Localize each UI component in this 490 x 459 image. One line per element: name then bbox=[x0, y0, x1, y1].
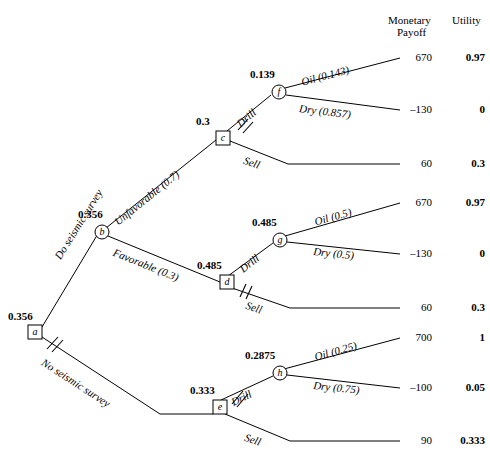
node-c-letter: c bbox=[216, 131, 230, 145]
payoff-column-header-line2: Payoff bbox=[397, 26, 426, 38]
prune-mark-a-e bbox=[47, 337, 63, 352]
outcome-payoff: –130 bbox=[382, 103, 432, 115]
outcome-payoff: 60 bbox=[382, 157, 432, 169]
node-a-value: 0.356 bbox=[8, 310, 33, 322]
node-f-letter: f bbox=[272, 85, 286, 99]
outcome-utility: 0.333 bbox=[440, 434, 485, 446]
node-e-value: 0.333 bbox=[190, 384, 215, 396]
node-h-value: 0.2875 bbox=[245, 349, 275, 361]
outcome-payoff: –130 bbox=[382, 247, 432, 259]
outcome-utility: 0.97 bbox=[440, 51, 485, 63]
outcome-utility: 0.97 bbox=[440, 196, 485, 208]
outcome-payoff: –100 bbox=[382, 381, 432, 393]
outcome-payoff: 90 bbox=[382, 434, 432, 446]
outcome-utility: 0.05 bbox=[440, 381, 485, 393]
outcome-payoff: 670 bbox=[382, 196, 432, 208]
node-d-letter: d bbox=[220, 275, 234, 289]
node-a-letter: a bbox=[28, 325, 42, 339]
outcome-payoff: 60 bbox=[382, 301, 432, 313]
node-d-value: 0.485 bbox=[197, 259, 222, 271]
node-g-value: 0.485 bbox=[252, 216, 277, 228]
outcome-utility: 0.3 bbox=[440, 157, 485, 169]
outcome-payoff: 700 bbox=[382, 331, 432, 343]
node-c-value: 0.3 bbox=[196, 115, 210, 127]
utility-column-header: Utility bbox=[452, 14, 481, 26]
node-e-letter: e bbox=[213, 400, 227, 414]
payoff-column-header-line1: Monetary bbox=[388, 14, 431, 26]
node-b-letter: b bbox=[95, 225, 109, 239]
outcome-utility: 0 bbox=[440, 103, 485, 115]
node-f-value: 0.139 bbox=[250, 68, 275, 80]
outcome-utility: 0 bbox=[440, 247, 485, 259]
outcome-utility: 1 bbox=[440, 331, 485, 343]
outcome-payoff: 670 bbox=[382, 51, 432, 63]
outcome-utility: 0.3 bbox=[440, 301, 485, 313]
node-g-letter: g bbox=[273, 233, 287, 247]
node-h-letter: h bbox=[273, 366, 287, 380]
